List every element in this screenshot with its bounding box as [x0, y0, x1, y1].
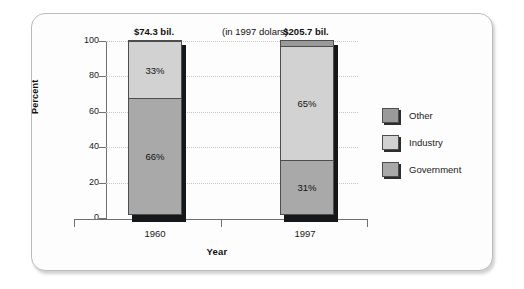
y-tick-label-80: 80: [69, 70, 99, 80]
legend-item-industry[interactable]: Industry: [382, 129, 487, 156]
bar-stack-1960[interactable]: 33% 66%: [128, 41, 182, 218]
bar-segment-industry-1960[interactable]: 33%: [128, 41, 182, 99]
y-tick-mark-20: [99, 183, 106, 184]
legend-swatch-other-icon: [382, 108, 399, 123]
legend-item-other[interactable]: Other: [382, 102, 487, 129]
x-category-label-1997: 1997: [270, 228, 340, 239]
legend-label-industry: Industry: [409, 137, 443, 148]
bar-segment-government-1997[interactable]: 31%: [280, 160, 334, 215]
plot-area: 33% 66% 65%: [106, 41, 358, 218]
y-tick-label-100: 100: [69, 35, 99, 45]
x-tick-mark-middle: [221, 219, 222, 227]
y-tick-label-60: 60: [69, 106, 99, 116]
bar-segment-industry-1997[interactable]: 65%: [280, 46, 334, 161]
y-tick-label-40: 40: [69, 141, 99, 151]
legend-swatch-industry-icon: [382, 135, 399, 150]
x-tick-mark-right: [367, 219, 368, 227]
y-tick-label-20: 20: [69, 177, 99, 187]
bar-column-1960: 33% 66%: [128, 41, 182, 218]
legend-label-government: Government: [409, 164, 461, 175]
bar-segment-label-industry-1997: 65%: [297, 98, 316, 109]
y-tick-mark-40: [99, 147, 106, 148]
legend-label-other: Other: [409, 110, 433, 121]
bar-total-annotation-1960: $74.3 bil.: [109, 26, 199, 37]
bar-segment-government-1960[interactable]: 66%: [128, 98, 182, 215]
bar-segment-label-government-1997: 31%: [297, 182, 316, 193]
legend-item-government[interactable]: Government: [382, 156, 487, 183]
bar-total-annotation-1997: $205.7 bil.: [261, 26, 351, 37]
chart-legend: Other Industry Government: [382, 102, 487, 183]
bar-segment-label-government-1960: 66%: [145, 151, 164, 162]
bar-segment-label-industry-1960: 33%: [145, 65, 164, 76]
y-tick-mark-60: [99, 112, 106, 113]
y-tick-mark-80: [99, 76, 106, 77]
chart-canvas: $74.3 bil. (in 1997 dolars) $205.7 bil. …: [32, 14, 494, 272]
figure-frame: $74.3 bil. (in 1997 dolars) $205.7 bil. …: [31, 13, 493, 271]
legend-swatch-government-icon: [382, 162, 399, 177]
y-axis-title: Percent: [30, 80, 40, 114]
x-tick-mark-left: [74, 219, 75, 227]
bar-column-1997: 65% 31%: [280, 41, 334, 218]
bar-stack-1997[interactable]: 65% 31%: [280, 41, 334, 218]
x-axis-title: Year: [32, 246, 402, 257]
y-tick-mark-100: [99, 41, 106, 42]
x-category-label-1960: 1960: [120, 228, 190, 239]
